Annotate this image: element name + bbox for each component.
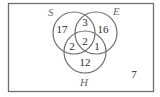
set-label-h: H: [79, 76, 89, 88]
venn-diagram: S E H 17 3 16 2 2 1 12 7: [0, 0, 160, 97]
set-label-e: E: [112, 5, 120, 17]
region-s-h: 2: [69, 40, 75, 52]
region-s-only: 17: [57, 23, 69, 35]
set-label-s: S: [48, 6, 54, 18]
region-e-h: 1: [94, 40, 100, 52]
region-h-only: 12: [80, 56, 91, 68]
region-s-e: 3: [82, 16, 88, 28]
region-e-only: 16: [98, 23, 110, 35]
region-s-e-h: 2: [82, 35, 88, 47]
region-outside: 7: [131, 68, 137, 80]
